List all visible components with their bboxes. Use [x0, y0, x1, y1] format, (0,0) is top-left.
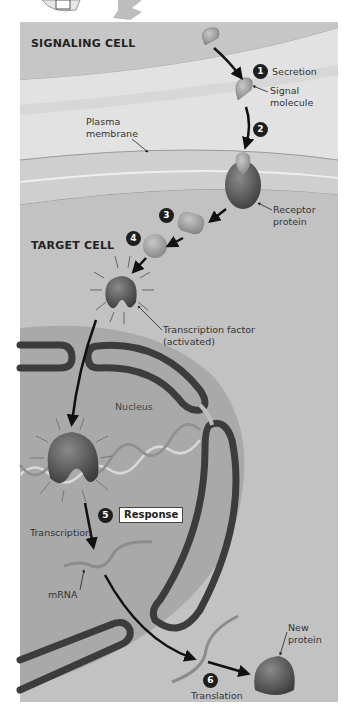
- response-box: Response: [119, 507, 183, 523]
- step-4-badge: 4: [126, 231, 141, 246]
- top-icon-fragment: [42, 0, 80, 11]
- relay-molecule-4-icon: [143, 234, 167, 258]
- plasma-membrane-label-1: Plasma: [86, 116, 120, 127]
- receptor-protein-label-2: protein: [273, 216, 307, 227]
- step-3-badge: 3: [159, 208, 174, 223]
- mrna-label: mRNA: [48, 589, 77, 600]
- target-cell-title: TARGET CELL: [31, 239, 114, 252]
- nucleus-label: Nucleus: [115, 401, 153, 412]
- signal-molecule-label-1: Signal: [270, 85, 299, 96]
- step-2-badge: 2: [253, 122, 268, 137]
- transcription-factor-label-1: Transcription factor: [163, 324, 255, 335]
- transcription-label: Transcription: [30, 527, 91, 538]
- translation-label: Translation: [191, 690, 243, 701]
- plasma-membrane-label-2: membrane: [86, 128, 138, 139]
- new-protein-label-2: protein: [288, 634, 322, 645]
- step-1-badge: 1: [253, 64, 268, 79]
- signaling-cell-title: SIGNALING CELL: [31, 37, 135, 50]
- receptor-protein-label-1: Receptor: [273, 204, 316, 215]
- secretion-label: Secretion: [272, 66, 317, 77]
- overview-arrow-icon: [113, 0, 142, 20]
- signal-molecule-label-2: molecule: [270, 97, 313, 108]
- step-5-badge: 5: [98, 508, 113, 523]
- new-protein-label-1: New: [288, 622, 309, 633]
- transcription-factor-label-2: (activated): [163, 336, 215, 347]
- step-6-badge: 6: [203, 673, 218, 688]
